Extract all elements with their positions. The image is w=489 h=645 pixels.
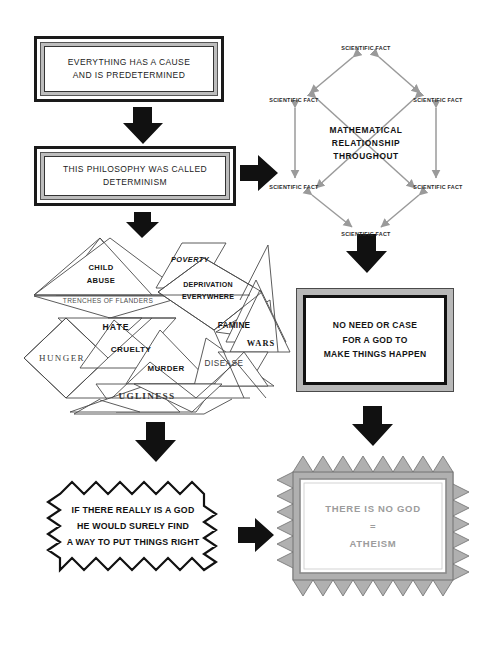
- stage-4-box: NO NEED OR CASE FOR A GOD TO MAKE THINGS…: [296, 288, 454, 392]
- triangle-label-ugliness: UGLINESS: [119, 391, 176, 401]
- stage-4-text: NO NEED OR CASE FOR A GOD TO MAKE THINGS…: [324, 318, 427, 363]
- triangle-label-hunger: HUNGER: [39, 353, 85, 363]
- diagram-canvas: EVERYTHING HAS A CAUSE AND IS PREDETERMI…: [0, 0, 489, 645]
- stage-6-text: IF THERE REALLY IS A GOD HE WOULD SURELY…: [60, 503, 206, 550]
- stage-6-box: IF THERE REALLY IS A GOD HE WOULD SURELY…: [48, 482, 218, 572]
- triangle-label-cruelty: CRUELTY: [111, 345, 151, 354]
- sci-fact-node-upper-right: SCIENTIFIC FACT: [413, 97, 462, 103]
- triangle-label-deprivation-everywhere: DEPRIVATION EVERYWHERE: [182, 279, 234, 304]
- stage-4-inner: NO NEED OR CASE FOR A GOD TO MAKE THINGS…: [303, 295, 447, 385]
- sci-fact-node-top: SCIENTIFIC FACT: [341, 45, 390, 51]
- stage-7-text: THERE IS NO GOD = ATHEISM: [315, 500, 430, 553]
- triangle-label-murder: MURDER: [147, 364, 184, 373]
- sci-fact-node-bottom: SCIENTIFIC FACT: [341, 231, 390, 237]
- arrow-down-icon: [352, 406, 393, 446]
- triangle-label-famine: FAMINE: [218, 321, 251, 330]
- hexagon-center-label: MATHEMATICAL RELATIONSHIP THROUGHOUT: [330, 124, 403, 163]
- triangle-tessellation: CHILD ABUSE POVERTY TRENCHES OF FLANDERS…: [0, 0, 300, 430]
- sci-fact-node-lower-right: SCIENTIFIC FACT: [413, 184, 462, 190]
- triangle-label-child-abuse: CHILD ABUSE: [87, 262, 116, 288]
- triangle-label-wars: WARS: [247, 339, 276, 348]
- triangle-label-hate: HATE: [103, 322, 130, 332]
- triangle-label-poverty: POVERTY: [171, 255, 209, 264]
- stage-7-box: THERE IS NO GOD = ATHEISM: [293, 472, 453, 580]
- triangle-label-trenches-of-flanders: TRENCHES OF FLANDERS: [63, 297, 153, 304]
- arrow-right-icon: [238, 518, 274, 552]
- triangle-label-disease: DISEASE: [205, 359, 244, 368]
